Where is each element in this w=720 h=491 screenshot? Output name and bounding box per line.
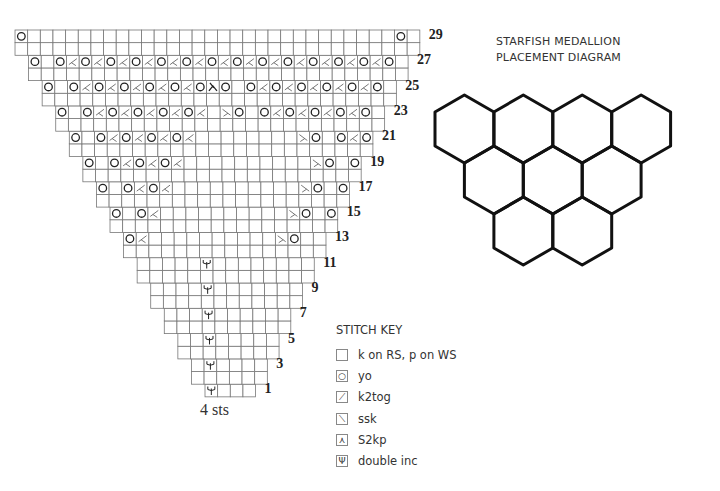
chart-cell: [174, 232, 187, 245]
chart-cell: [256, 68, 269, 81]
chart-cell: [197, 157, 210, 170]
chart-cell: [230, 43, 243, 56]
chart-cell: [344, 43, 357, 56]
chart-cell: [237, 220, 250, 233]
chart-cell: [116, 30, 129, 43]
chart-cell: [245, 93, 258, 106]
row-number-7: 7: [300, 305, 307, 321]
chart-cell: [275, 245, 288, 258]
chart-cell: [319, 30, 332, 43]
chart-cell: [236, 182, 249, 195]
chart-cell: [278, 308, 291, 321]
chart-cell: [211, 207, 224, 220]
chart-cell: [130, 68, 143, 81]
chart-cell: [185, 182, 198, 195]
chart-cell: [168, 68, 181, 81]
chart-cell: [230, 384, 243, 397]
chart-cell: [96, 194, 109, 207]
chart-cell: [301, 245, 314, 258]
chart-cell: [117, 68, 130, 81]
chart-cell: [265, 296, 278, 309]
chart-cell: [106, 119, 119, 132]
chart-cell: [208, 144, 221, 157]
chart-cell: [78, 43, 91, 56]
chart-cell: [150, 270, 163, 283]
chart-cell: [188, 258, 201, 271]
chart-cell: [78, 30, 91, 43]
chart-cell: [218, 68, 231, 81]
chart-cell: [298, 157, 311, 170]
chart-cell: [176, 296, 189, 309]
stitch-key-label: k2tog: [358, 390, 391, 404]
chart-cell: [215, 321, 228, 334]
chart-cell: [309, 119, 322, 132]
chart-cell: [95, 144, 108, 157]
chart-cell: [162, 232, 175, 245]
chart-cell: [116, 43, 129, 56]
chart-cell: [336, 169, 349, 182]
chart-cell: [91, 43, 104, 56]
chart-cell: [221, 131, 234, 144]
chart-cell: [220, 119, 233, 132]
chart-cell: [40, 30, 53, 43]
chart-cell: [28, 43, 41, 56]
chart-cell: [272, 131, 285, 144]
chart-cell: [189, 283, 202, 296]
chart-cell: [246, 131, 259, 144]
chart-cell: [237, 232, 250, 245]
chart-cell: [225, 232, 238, 245]
chart-cell: [310, 144, 323, 157]
chart-cell: [320, 68, 333, 81]
chart-cell: [277, 296, 290, 309]
chart-cell: [198, 182, 211, 195]
chart-cell: [223, 182, 236, 195]
chart-cell: [96, 157, 109, 170]
chart-cell: [371, 93, 384, 106]
chart-cell: [191, 346, 204, 359]
chart-cell: [319, 43, 332, 56]
chart-cell: [226, 258, 239, 271]
chart-cell: [298, 169, 311, 182]
chart-cell: [253, 321, 266, 334]
chart-cell: [148, 220, 161, 233]
chart-cell: [335, 144, 348, 157]
chart-cell: [175, 258, 188, 271]
row-number-17: 17: [358, 179, 372, 195]
chart-cell: [214, 296, 227, 309]
stitch-key-label: double inc: [358, 454, 418, 468]
empty-square-icon: [336, 349, 348, 361]
chart-cell: [209, 157, 222, 170]
chart-cell: [331, 43, 344, 56]
chart-cell: [161, 207, 174, 220]
chart-cell: [213, 270, 226, 283]
stitch-key-item: ⋏S2kp: [336, 429, 457, 450]
chart-cell: [219, 93, 232, 106]
chart-cell: [191, 334, 204, 347]
chart-cell: [197, 169, 210, 182]
chart-cell: [307, 68, 320, 81]
yarn-over-icon: ○: [336, 370, 348, 382]
chart-cell: [253, 308, 266, 321]
chart-cell: [213, 258, 226, 271]
chart-cell: [248, 194, 261, 207]
chart-cell: [54, 68, 67, 81]
chart-cell: [79, 68, 92, 81]
chart-cell: [155, 68, 168, 81]
chart-cell: [186, 220, 199, 233]
chart-cell: [195, 119, 208, 132]
row-number-27: 27: [417, 52, 431, 68]
chart-cell: [299, 194, 312, 207]
chart-cell: [42, 93, 55, 106]
chart-cell: [243, 43, 256, 56]
chart-cell: [227, 296, 240, 309]
chart-cell: [133, 169, 146, 182]
chart-cell: [306, 43, 319, 56]
placement-diagram-title: STARFISH MEDALLION PLACEMENT DIAGRAM: [496, 34, 621, 66]
chart-cell: [228, 334, 241, 347]
chart-cell: [223, 194, 236, 207]
chart-cell: [104, 68, 117, 81]
chart-cell: [150, 258, 163, 271]
chart-cell: [238, 258, 251, 271]
chart-cell: [134, 194, 147, 207]
chart-cell: [245, 106, 258, 119]
